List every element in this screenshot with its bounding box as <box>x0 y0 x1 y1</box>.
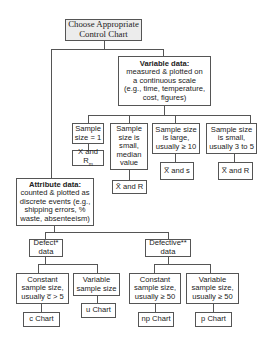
connector <box>234 153 235 162</box>
sample-size-one-node: Sample size = 1 <box>72 123 104 144</box>
p-chart-node: p Chart <box>195 312 232 327</box>
chart-label: np Chart <box>141 315 170 324</box>
connector <box>164 105 165 115</box>
defect-variable-sample-node: Variable sample size <box>73 273 120 296</box>
chart-label: c Chart <box>29 315 53 324</box>
defect-data-node: Defect* data <box>29 239 63 257</box>
chart-label: X̃ and R <box>116 183 143 192</box>
sample-small-median-node: Sample size is small, median value <box>110 123 148 170</box>
c-chart-node: c Chart <box>23 312 60 327</box>
root-node: Choose Appropriate Control Chart <box>65 19 142 41</box>
u-chart-node: u Chart <box>81 303 116 318</box>
condition-line: usually 3 to 5 <box>209 143 254 152</box>
condition-line: size = 1 <box>75 134 101 143</box>
connector <box>88 115 251 116</box>
connector <box>51 49 52 178</box>
sample-large-node: Sample size is large, usually ≥ 10 <box>152 123 200 154</box>
connector <box>213 303 214 312</box>
condition-line: usually c̅ > 5 <box>21 293 63 302</box>
label-line: data <box>161 248 176 257</box>
connector <box>45 232 169 233</box>
connector <box>51 49 164 50</box>
connector <box>97 264 98 273</box>
connector <box>129 115 130 123</box>
condition-line: usually ≥ 50 <box>135 293 175 302</box>
defective-constant-sample-node: Constant sample size, usually ≥ 50 <box>129 273 181 304</box>
connector <box>168 256 169 264</box>
connector <box>175 115 176 123</box>
x-tilde-and-r-chart-node: X̃ and R <box>112 180 147 194</box>
chart-label: p Chart <box>201 315 226 324</box>
variable-data-node: Variable data: measured & plotted on a c… <box>118 56 211 106</box>
connector <box>104 40 105 49</box>
connector <box>38 264 39 273</box>
x-bar-and-r-chart-node: X̅ and R <box>218 162 253 180</box>
connector <box>45 256 46 264</box>
chart-label: X̅ and s <box>164 167 190 176</box>
condition-line: value <box>120 159 138 168</box>
connector <box>175 153 176 162</box>
defective-data-node: Defective** data <box>145 239 191 257</box>
label-line: data <box>39 248 54 257</box>
defect-constant-sample-node: Constant sample size, usually c̅ > 5 <box>16 273 69 304</box>
defective-variable-sample-node: Variable sample size, usually ≥ 50 <box>186 273 239 304</box>
connector <box>154 264 155 273</box>
variable-line: cost, figures) <box>143 94 186 103</box>
condition-line: usually ≥ 10 <box>156 143 196 152</box>
connector <box>129 169 130 180</box>
connector <box>97 295 98 303</box>
condition-line: usually ≥ 50 <box>192 293 232 302</box>
connector <box>154 264 211 265</box>
chart-label: X̅ and R <box>222 167 249 176</box>
attribute-line: waste, absenteeism) <box>20 215 90 224</box>
x-and-rm-chart-node: X and Rm <box>72 150 104 166</box>
chart-label: u Chart <box>86 306 111 315</box>
attribute-data-node: Attribute data: counted & plotted as dis… <box>16 178 94 226</box>
connector <box>54 225 55 232</box>
root-line-2: Control Chart <box>79 30 128 40</box>
connector <box>41 303 42 312</box>
connector <box>88 115 89 123</box>
condition-line: sample size <box>76 285 116 294</box>
chart-label: X and Rm <box>74 148 102 168</box>
connector <box>163 49 164 56</box>
connector <box>250 115 251 123</box>
x-bar-and-s-chart-node: X̅ and s <box>160 162 194 180</box>
np-chart-node: np Chart <box>138 312 174 327</box>
sample-small-node: Sample size is small, usually 3 to 5 <box>206 123 257 154</box>
connector <box>38 264 98 265</box>
connector <box>210 264 211 273</box>
connector <box>155 303 156 312</box>
